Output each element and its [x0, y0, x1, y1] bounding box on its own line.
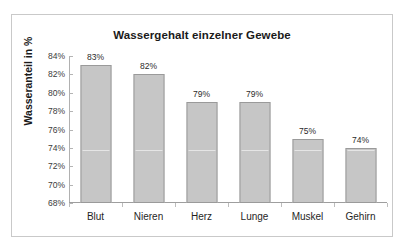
- chart-frame: Wassergehalt einzelner Gewebe Wasserante…: [11, 14, 393, 237]
- category-label-slot: Lunge: [228, 56, 281, 203]
- category-label-slot: Herz: [175, 56, 228, 203]
- x-axis-category-label: Gehirn: [345, 211, 375, 222]
- y-axis-tick-label: 72%: [35, 161, 65, 171]
- chart-title: Wassergehalt einzelner Gewebe: [12, 29, 392, 41]
- x-axis-tick-mark: [387, 203, 388, 207]
- y-axis-tick-label: 84%: [35, 51, 65, 61]
- x-axis-tick-mark: [281, 203, 282, 207]
- y-axis-tick-label: 78%: [35, 106, 65, 116]
- y-axis-tick-label: 70%: [35, 180, 65, 190]
- y-axis-tick-label: 68%: [35, 198, 65, 208]
- x-axis-tick-mark: [175, 203, 176, 207]
- x-axis-category-label: Muskel: [292, 211, 324, 222]
- y-axis-tick-label: 76%: [35, 125, 65, 135]
- x-axis-tick-mark: [122, 203, 123, 207]
- x-axis-category-label: Herz: [191, 211, 212, 222]
- y-axis-tick-label: 80%: [35, 88, 65, 98]
- category-label-slot: Blut: [69, 56, 122, 203]
- x-axis-tick-mark: [334, 203, 335, 207]
- category-label-slot: Nieren: [122, 56, 175, 203]
- x-axis-tick-mark: [69, 203, 70, 207]
- plot-area: 84%82%80%78%76%74%72%70%68% 83%82%79%79%…: [69, 56, 387, 203]
- x-axis-tick-mark: [228, 203, 229, 207]
- category-label-slot: Gehirn: [334, 56, 387, 203]
- x-axis-category-label: Blut: [87, 211, 104, 222]
- x-axis-category-label: Nieren: [134, 211, 163, 222]
- category-label-slot: Muskel: [281, 56, 334, 203]
- y-axis-tick-label: 82%: [35, 69, 65, 79]
- y-axis-tick-label: 74%: [35, 143, 65, 153]
- x-axis-category-label: Lunge: [241, 211, 269, 222]
- y-axis-title: Wasseranteil in %: [22, 21, 34, 141]
